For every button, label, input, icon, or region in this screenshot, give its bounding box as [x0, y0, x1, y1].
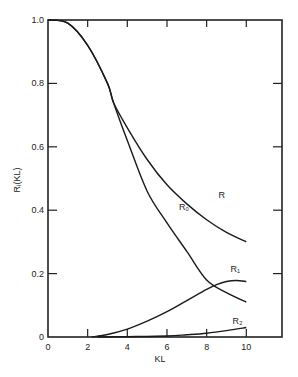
plot-frame [48, 20, 282, 337]
curve-R [48, 20, 246, 242]
y-tick-label: 0 [39, 332, 44, 342]
y-tick-label: 0.6 [31, 142, 44, 152]
curves [48, 20, 246, 337]
y-tick-label: 0.2 [31, 269, 44, 279]
x-tick-label: 4 [125, 342, 130, 352]
y-tick-label: 0.8 [31, 78, 44, 88]
curve-R0 [48, 20, 246, 302]
y-tick-label: 0.4 [31, 205, 44, 215]
curve-label: R₂ [232, 316, 242, 326]
curve-R1 [92, 281, 247, 337]
x-tick-label: 8 [204, 342, 209, 352]
curve-label: R₀ [179, 202, 189, 212]
curve-label: R₁ [230, 264, 240, 274]
curve-labels: RR₀R₁R₂ [179, 190, 243, 327]
curve-label: R [219, 190, 226, 200]
x-tick-label: 2 [85, 342, 90, 352]
x-tick-label: 0 [45, 342, 50, 352]
y-axis-label: Rᵢ(KL) [12, 168, 22, 193]
curve-R2 [98, 327, 247, 337]
y-tick-label: 1.0 [31, 15, 44, 25]
plot-border [48, 20, 282, 337]
x-tick-label: 6 [164, 342, 169, 352]
line-chart: 024681000.20.40.60.81.0 RR₀R₁R₂ KL Rᵢ(KL… [0, 0, 298, 377]
x-axis-label: KL [154, 354, 165, 364]
x-tick-label: 10 [241, 342, 251, 352]
